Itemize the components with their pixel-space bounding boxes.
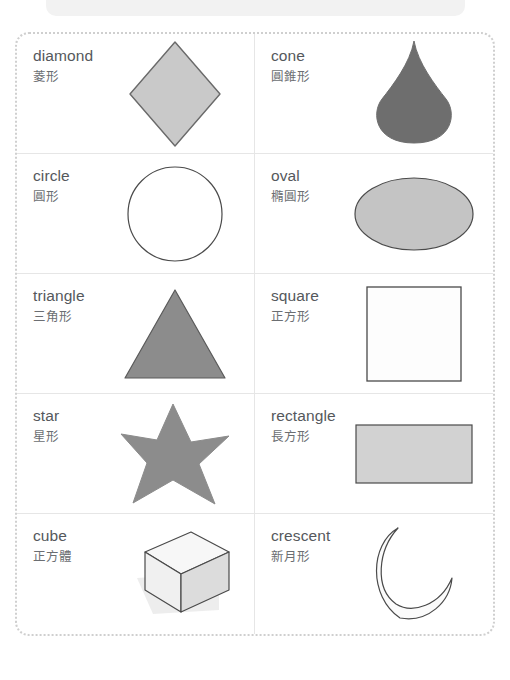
shape-cell-triangle[interactable]: triangle 三角形 <box>17 274 255 394</box>
shape-art <box>100 514 250 634</box>
shape-labels: diamond 菱形 <box>33 48 93 83</box>
shape-cell-crescent[interactable]: crescent 新月形 <box>255 514 493 634</box>
shape-label-en: circle <box>33 168 70 184</box>
shape-labels: circle 圓形 <box>33 168 70 203</box>
shape-cell-rectangle[interactable]: rectangle 長方形 <box>255 394 493 514</box>
shape-label-en: diamond <box>33 48 93 64</box>
crescent-icon <box>366 524 462 624</box>
shape-cell-diamond[interactable]: diamond 菱形 <box>17 34 255 154</box>
shape-label-zh: 長方形 <box>271 431 336 444</box>
shape-art <box>339 274 489 393</box>
shape-cell-square[interactable]: square 正方形 <box>255 274 493 394</box>
shape-art <box>100 34 250 153</box>
shape-label-zh: 正方體 <box>33 551 72 564</box>
shape-labels: triangle 三角形 <box>33 288 85 323</box>
shapes-grid: diamond 菱形 cone 圓錐形 <box>17 34 493 634</box>
top-banner <box>46 0 465 16</box>
shape-cell-oval[interactable]: oval 橢圓形 <box>255 154 493 274</box>
shape-label-zh: 星形 <box>33 431 59 444</box>
shape-labels: oval 橢圓形 <box>271 168 310 203</box>
shape-label-zh: 菱形 <box>33 71 93 84</box>
rectangle-icon <box>354 423 474 485</box>
shape-cell-star[interactable]: star 星形 <box>17 394 255 514</box>
shape-art <box>339 154 489 273</box>
shape-label-zh: 正方形 <box>271 311 319 324</box>
shape-art <box>100 394 250 513</box>
shape-cell-circle[interactable]: circle 圓形 <box>17 154 255 274</box>
shape-labels: star 星形 <box>33 408 59 443</box>
shapes-card-frame: diamond 菱形 cone 圓錐形 <box>15 32 495 636</box>
shape-label-en: rectangle <box>271 408 336 424</box>
shape-label-zh: 圓錐形 <box>271 71 310 84</box>
diamond-icon <box>127 39 223 149</box>
cone-icon <box>369 39 459 149</box>
shape-label-en: cone <box>271 48 310 64</box>
shape-art <box>339 34 489 153</box>
shape-labels: cube 正方體 <box>33 528 72 563</box>
shape-label-zh: 圓形 <box>33 191 70 204</box>
oval-icon <box>353 175 475 253</box>
shape-cell-cone[interactable]: cone 圓錐形 <box>255 34 493 154</box>
shape-label-en: triangle <box>33 288 85 304</box>
shapes-vocabulary-page: diamond 菱形 cone 圓錐形 <box>0 0 510 680</box>
shape-label-en: oval <box>271 168 310 184</box>
shape-labels: crescent 新月形 <box>271 528 330 563</box>
shape-labels: rectangle 長方形 <box>271 408 336 443</box>
shape-cell-cube[interactable]: cube 正方體 <box>17 514 255 634</box>
shape-art <box>339 514 489 634</box>
shape-label-en: crescent <box>271 528 330 544</box>
shape-label-zh: 三角形 <box>33 311 85 324</box>
square-icon <box>365 285 463 383</box>
star-icon <box>119 402 231 506</box>
shape-art <box>339 394 489 513</box>
shape-art <box>100 154 250 273</box>
triangle-icon <box>123 288 227 380</box>
cube-icon <box>115 526 235 622</box>
shape-label-en: cube <box>33 528 72 544</box>
shape-art <box>100 274 250 393</box>
shape-label-zh: 橢圓形 <box>271 191 310 204</box>
shape-label-en: square <box>271 288 319 304</box>
shape-labels: cone 圓錐形 <box>271 48 310 83</box>
shape-label-en: star <box>33 408 59 424</box>
circle-icon <box>126 165 224 263</box>
shape-labels: square 正方形 <box>271 288 319 323</box>
shape-label-zh: 新月形 <box>271 551 330 564</box>
